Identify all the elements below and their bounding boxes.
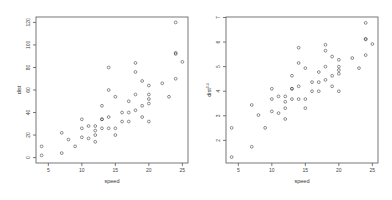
data-point <box>304 67 307 70</box>
data-point <box>337 65 340 68</box>
data-point <box>230 156 233 159</box>
data-point <box>277 112 280 115</box>
data-point <box>371 43 374 46</box>
data-point <box>311 81 314 84</box>
y-tick-label: 5 <box>215 65 221 68</box>
data-point <box>264 126 267 129</box>
data-point <box>297 98 300 101</box>
data-point <box>250 104 253 107</box>
data-point <box>351 57 354 60</box>
x-axis-label: speed <box>295 178 310 184</box>
data-point <box>331 85 334 88</box>
data-point <box>270 87 273 90</box>
y-tick-label: 7 <box>215 16 221 19</box>
data-point <box>317 81 320 84</box>
x-tick-label: 15 <box>303 167 309 173</box>
data-point <box>317 90 320 93</box>
data-point <box>331 55 334 58</box>
data-point <box>297 46 300 49</box>
plot-frame <box>226 17 378 163</box>
data-point <box>291 87 294 90</box>
data-point <box>284 118 287 121</box>
data-point <box>324 65 327 68</box>
data-point <box>364 21 367 24</box>
data-point <box>277 95 280 98</box>
data-point <box>358 67 361 70</box>
x-tick-label: 5 <box>237 167 240 173</box>
data-point <box>337 72 340 75</box>
x-tick-label: 20 <box>336 167 342 173</box>
data-point <box>257 114 260 117</box>
data-point <box>337 90 340 93</box>
data-point <box>250 145 253 148</box>
y-tick-label: 4 <box>215 90 221 93</box>
x-tick-label: 10 <box>269 167 275 173</box>
y-tick-label: 3 <box>215 114 221 117</box>
data-point <box>284 95 287 98</box>
data-point <box>311 90 314 93</box>
data-point <box>291 74 294 77</box>
data-point <box>230 126 233 129</box>
data-point <box>317 71 320 74</box>
data-point <box>304 98 307 101</box>
data-point <box>337 58 340 61</box>
data-point <box>331 74 334 77</box>
data-point <box>324 49 327 52</box>
data-point <box>337 69 340 72</box>
data-point <box>270 98 273 101</box>
y-tick-label: 2 <box>215 139 221 142</box>
data-point <box>364 54 367 57</box>
y-tick-label: 6 <box>215 40 221 43</box>
data-point <box>291 98 294 101</box>
data-point <box>304 107 307 110</box>
data-point <box>297 85 300 88</box>
data-point <box>324 79 327 82</box>
y-axis-label: dist0.4 <box>206 83 212 96</box>
data-point <box>270 110 273 113</box>
x-tick-label: 25 <box>370 167 376 173</box>
scatter-plot-dist-transformed: 510152025234567speeddist0.4 <box>0 0 392 200</box>
data-point <box>324 43 327 46</box>
chart-stage: 510152025020406080100120speeddist 510152… <box>0 0 392 200</box>
data-point <box>284 100 287 103</box>
data-point <box>284 107 287 110</box>
data-point <box>297 62 300 65</box>
